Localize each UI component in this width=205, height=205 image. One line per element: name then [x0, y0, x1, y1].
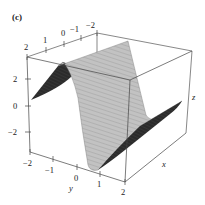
y-tick-label: 2 — [121, 188, 125, 197]
z-tick-label: 2 — [13, 75, 17, 84]
x-tick-label: 0 — [61, 29, 65, 38]
z-axis-label: z — [192, 93, 195, 102]
x-tick-label: 1 — [43, 36, 47, 45]
y-tick-label: −2 — [23, 159, 32, 168]
x-tick-label: −2 — [86, 21, 95, 30]
y-axis-label: y — [69, 184, 73, 193]
x-axis-label: x — [162, 160, 166, 169]
surface-shadow-left — [31, 62, 72, 100]
z-tick-label: −2 — [8, 128, 17, 137]
x-tick-label: 2 — [24, 43, 28, 52]
surface-plot — [0, 0, 205, 205]
y-tick-label: 0 — [74, 174, 78, 183]
y-tick-label: −1 — [45, 166, 54, 175]
x-tick-label: −1 — [70, 25, 79, 34]
z-tick-label: 0 — [13, 102, 17, 111]
y-tick-label: 1 — [97, 180, 101, 189]
panel-label: (c) — [12, 12, 22, 22]
